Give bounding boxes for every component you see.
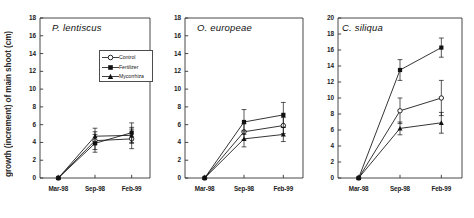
y-tick-label: 16 [163,32,181,39]
x-tick-label: Mar-98 [339,185,379,192]
y-tick-label: 10 [18,85,36,92]
x-tick-label: Feb-99 [263,185,303,192]
chart-panel-p-lentiscus: P. lentiscus Control Fertilizer [0,0,155,218]
x-tick-label: Feb-99 [112,185,152,192]
x-tick-label: Sep-98 [75,185,115,192]
y-tick-label: 20 [316,14,334,21]
legend-item-control: Control [102,53,152,62]
y-tick-label: 8 [18,103,36,110]
y-tick-label: 14 [316,62,334,69]
x-tick-label: Sep-98 [380,185,420,192]
y-tick-label: 16 [18,32,36,39]
y-tick-label: 4 [163,138,181,145]
y-tick-label: 0 [163,174,181,181]
x-tick-label: Sep-98 [224,185,264,192]
legend-label-mycorrhiza: Mycorrhiza [119,72,144,81]
figure-panel-group: growth (increment) of main shoot (cm) P.… [0,0,474,218]
y-tick-label: 14 [163,50,181,57]
y-tick-label: 16 [316,46,334,53]
filled-triangle-icon [102,72,119,81]
y-tick-label: 12 [18,67,36,74]
y-tick-label: 0 [18,174,36,181]
y-tick-label: 8 [163,103,181,110]
y-tick-label: 2 [163,156,181,163]
y-tick-label: 18 [316,30,334,37]
chart-panel-o-europeae: O. europeae 024681012141618Mar-98Sep-98F… [155,0,310,218]
y-tick-label: 2 [316,158,334,165]
y-tick-label: 12 [163,67,181,74]
filled-square-icon [102,63,119,72]
y-tick-label: 10 [316,94,334,101]
y-tick-label: 10 [163,85,181,92]
legend-label-control: Control [119,53,135,62]
x-tick-label: Feb-99 [421,185,461,192]
y-tick-label: 12 [316,78,334,85]
y-tick-label: 18 [18,14,36,21]
legend-item-mycorrhiza: Mycorrhiza [102,72,152,81]
y-tick-label: 4 [18,138,36,145]
y-tick-label: 18 [163,14,181,21]
y-tick-label: 0 [316,174,334,181]
chart-panel-c-siliqua: C. siliqua 02468101214161820Mar-98Sep-98… [310,0,465,218]
y-tick-label: 2 [18,156,36,163]
y-tick-label: 8 [316,110,334,117]
chart-legend: Control Fertilizer Mycorrhiza [99,50,153,82]
y-tick-label: 6 [18,121,36,128]
y-tick-label: 14 [18,50,36,57]
y-tick-label: 6 [316,126,334,133]
legend-item-fertilizer: Fertilizer [102,63,152,72]
x-tick-label: Mar-98 [38,185,78,192]
y-tick-label: 4 [316,142,334,149]
y-tick-label: 6 [163,121,181,128]
x-tick-label: Mar-98 [185,185,225,192]
open-circle-icon [102,53,119,62]
legend-label-fertilizer: Fertilizer [119,63,138,72]
